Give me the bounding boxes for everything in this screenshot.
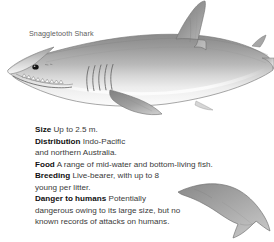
fact-line-food: Food A range of mid-water and bottom-liv… [35,159,267,171]
fact-line-distribution-cont: and northern Australia. [35,147,267,159]
fact-label-food: Food [35,160,55,169]
fact-line-danger-cont-2: known records of attacks on humans. [35,216,267,228]
shark-eye [32,64,38,69]
fact-value-distribution: Indo-Pacific [83,137,125,146]
fact-line-distribution: Distribution Indo-Pacific [35,136,267,148]
fact-line-danger: Danger to humans Potentially [35,193,267,205]
fact-value-danger: Potentially [108,194,145,203]
fact-label-danger: Danger to humans [35,194,106,203]
fact-label-size: Size [35,125,51,134]
fact-value-danger-cont-1: dangerous owing to its large size, but n… [35,206,180,215]
fact-line-breeding-cont: young per litter. [35,182,267,194]
fact-value-distribution-cont: and northern Australia. [35,148,117,157]
fact-value-danger-cont-2: known records of attacks on humans. [35,217,169,226]
second-dorsal-fin [252,35,266,47]
shark-body [8,34,273,106]
species-caption-label: Snaggletooth Shark [29,29,94,38]
fact-line-size: Size Up to 2.5 m. [35,124,267,136]
fact-label-breeding: Breeding [35,171,70,180]
fact-value-breeding: Live-bearer, with up to 8 [72,171,159,180]
fact-line-danger-cont-1: dangerous owing to its large size, but n… [35,205,267,217]
species-fact-page: Snaggletooth Shark Size Up to 2.5 m. Dis… [0,0,274,242]
fact-line-breeding: Breeding Live-bearer, with up to 8 [35,170,267,182]
species-fact-block: Size Up to 2.5 m. Distribution Indo-Paci… [35,124,267,228]
pelvic-fin [195,101,213,110]
fact-label-distribution: Distribution [35,137,81,146]
fact-value-breeding-cont: young per litter. [35,183,91,192]
fact-value-food: A range of mid-water and bottom-living f… [57,160,213,169]
fact-value-size: Up to 2.5 m. [54,125,98,134]
